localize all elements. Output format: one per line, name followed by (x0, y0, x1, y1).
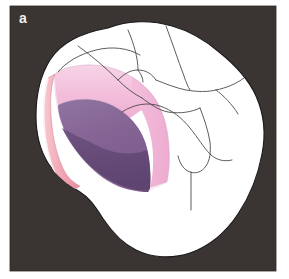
panel-label-a: a (19, 11, 27, 25)
tooth-illustration (0, 0, 289, 279)
figure-panel-a: a (0, 0, 289, 279)
